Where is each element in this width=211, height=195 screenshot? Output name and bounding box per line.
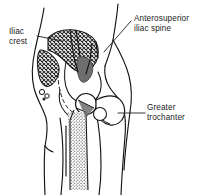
label-greater-trochanter-line2: trochanter	[147, 113, 185, 123]
anatomical-figure: Iliac crest Anterosuperior iliac spine G…	[0, 0, 211, 195]
label-anterosuperior-iliac-spine: Anterosuperior iliac spine	[134, 14, 189, 33]
greater-trochanter-structure	[94, 96, 125, 125]
label-anterosuperior-iliac-spine-line1: Anterosuperior	[134, 14, 189, 23]
label-iliac-crest-line1: Iliac	[9, 27, 24, 36]
label-greater-trochanter: Greater trochanter	[147, 103, 185, 122]
label-iliac-crest: Iliac crest	[9, 27, 27, 46]
iliac-crest-structure	[34, 24, 104, 101]
label-iliac-crest-line2: crest	[9, 37, 27, 47]
sacrum-structure	[77, 57, 93, 82]
label-anterosuperior-iliac-spine-line2: iliac spine	[134, 24, 189, 34]
label-greater-trochanter-line1: Greater	[147, 103, 175, 112]
